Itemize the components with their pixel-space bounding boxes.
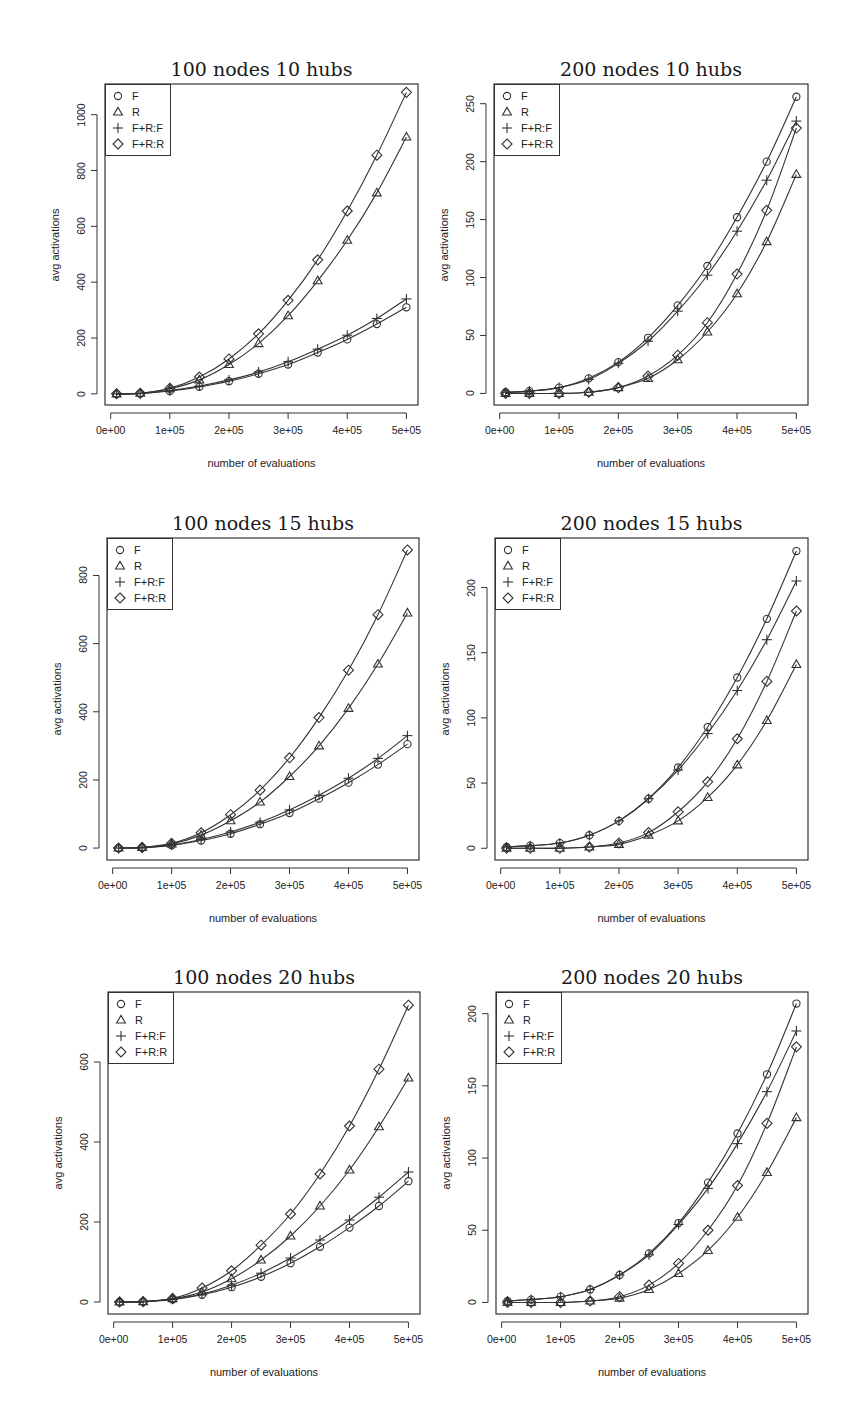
series-r <box>503 1113 801 1305</box>
plus-marker-icon <box>501 1028 517 1044</box>
y-tick-label: 100 <box>466 1149 478 1167</box>
diamond-marker-icon <box>501 1044 517 1060</box>
legend: FRF+R:FF+R:R <box>496 992 562 1064</box>
y-tick-label: 150 <box>466 1077 478 1095</box>
circle-marker-icon <box>501 996 517 1012</box>
legend-item: F <box>501 996 555 1012</box>
legend-label: F+R:F <box>523 1028 554 1044</box>
legend-item: F+R:R <box>501 1044 555 1060</box>
x-tick-label: 4e+05 <box>723 1333 753 1345</box>
y-axis-label: avg activations <box>440 1117 452 1190</box>
x-tick-label: 1e+05 <box>546 1333 576 1345</box>
x-tick-label: 2e+05 <box>605 1333 635 1345</box>
x-axis-label: number of evaluations <box>598 1366 706 1378</box>
series-frf <box>503 1026 802 1306</box>
triangle-marker-icon <box>501 1012 517 1028</box>
legend-item: R <box>501 1012 555 1028</box>
series-frr <box>503 1042 802 1308</box>
y-tick-label: 50 <box>466 1224 478 1236</box>
legend-label: R <box>523 1012 531 1028</box>
y-tick-label: 0 <box>466 1300 478 1306</box>
legend-label: F+R:R <box>523 1044 555 1060</box>
plot-area <box>0 0 857 1411</box>
legend-label: F <box>523 996 530 1012</box>
x-tick-label: 5e+05 <box>782 1333 812 1345</box>
x-tick-label: 0e+00 <box>487 1333 517 1345</box>
x-tick-label: 3e+05 <box>664 1333 694 1345</box>
legend-item: F+R:F <box>501 1028 555 1044</box>
figure: 100 nodes 10 hubs0e+001e+052e+053e+054e+… <box>0 0 857 1411</box>
y-tick-label: 200 <box>466 1005 478 1023</box>
